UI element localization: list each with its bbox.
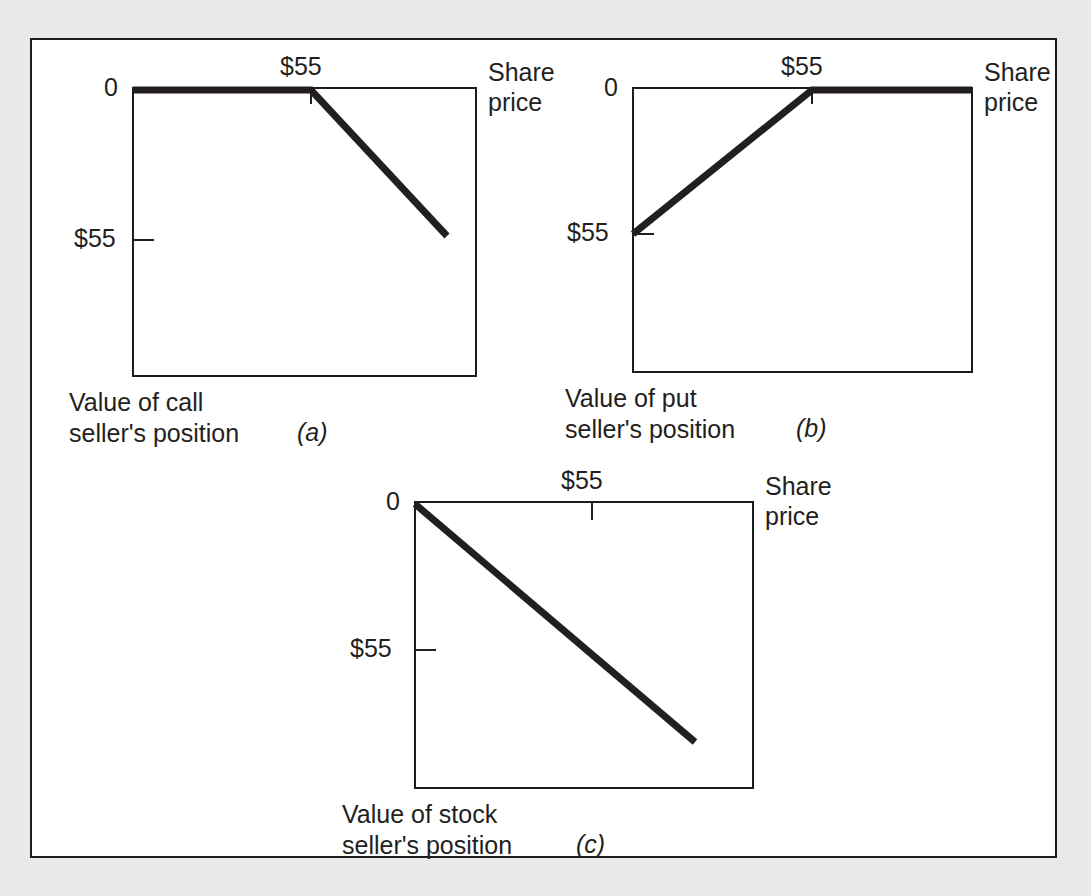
panel-c-caption-line1: Value of stock [342, 799, 497, 830]
panel-a-caption-line1: Value of call [69, 387, 203, 418]
panel-b-panel-label: (b) [796, 414, 827, 443]
panel-b-y-strike-label: $55 [567, 218, 609, 247]
panel-c-y-strike-label: $55 [350, 634, 392, 663]
panel-a-payoff-line [133, 90, 447, 236]
panel-c-y-zero-label: 0 [386, 487, 400, 516]
figure-root: 0 $55 $55 Share price Value of call sell… [0, 0, 1091, 896]
panel-b-caption-line1: Value of put [565, 383, 697, 414]
panel-c-caption-line2: seller's position [342, 830, 512, 861]
panel-a-y-strike-label: $55 [74, 224, 116, 253]
figure-outer-frame: 0 $55 $55 Share price Value of call sell… [30, 38, 1057, 858]
panel-a-caption-line2: seller's position [69, 418, 239, 449]
panel-a-panel-label: (a) [297, 418, 328, 447]
panel-b-payoff-line [633, 90, 972, 234]
panel-b-x-axis-title-line1: Share [984, 57, 1051, 87]
panel-c: 0 $55 $55 Share price Value of stock sel… [312, 452, 832, 860]
panel-c-payoff-line [415, 504, 695, 742]
panel-a-y-zero-label: 0 [104, 73, 118, 102]
panel-a-x-strike-label: $55 [280, 52, 322, 81]
panel-b-caption-line2: seller's position [565, 414, 735, 445]
panel-b: 0 $55 $55 Share price Value of put selle… [532, 40, 1059, 460]
panel-c-x-axis-title-line2: price [765, 501, 819, 531]
panel-b-x-strike-label: $55 [781, 52, 823, 81]
panel-b-y-zero-label: 0 [604, 73, 618, 102]
panel-a: 0 $55 $55 Share price Value of call sell… [32, 40, 552, 460]
panel-c-panel-label: (c) [576, 830, 605, 859]
panel-c-x-axis-title-line1: Share [765, 471, 832, 501]
panel-b-x-axis-title-line2: price [984, 87, 1038, 117]
panel-c-x-strike-label: $55 [561, 466, 603, 495]
